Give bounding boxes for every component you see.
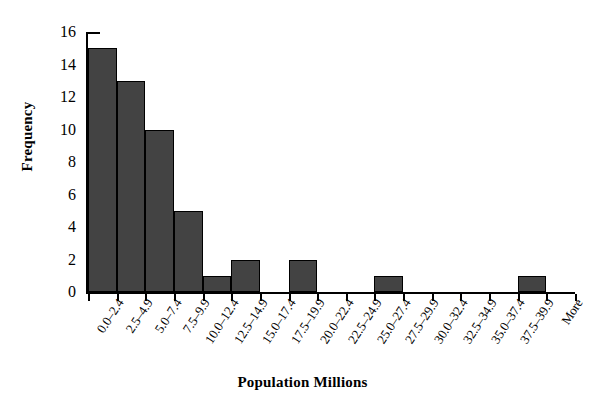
bar-slot [403, 32, 432, 292]
y-axis-tick-label: 16 [16, 24, 76, 40]
y-axis-tick-label: 0 [16, 284, 76, 300]
bar-slot [289, 32, 318, 292]
bar-slot [203, 32, 232, 292]
bar-slot [260, 32, 289, 292]
histogram-bar [203, 276, 232, 292]
bar-slot [518, 32, 547, 292]
histogram-bar [174, 211, 203, 292]
y-axis-tick-label: 10 [16, 122, 76, 138]
bar-slot [346, 32, 375, 292]
bar-slot [231, 32, 260, 292]
histogram-chart: Frequency 0246810121416 Population Milli… [0, 0, 605, 401]
histogram-bar [289, 260, 318, 293]
bar-slot [460, 32, 489, 292]
bar-slot [374, 32, 403, 292]
x-axis-title: Population Millions [0, 374, 605, 391]
plot-area [88, 32, 575, 292]
y-axis-tick-label: 6 [16, 187, 76, 203]
bar-slot [117, 32, 146, 292]
y-axis-tick-label: 14 [16, 57, 76, 73]
bar-slot [489, 32, 518, 292]
bar-slot [174, 32, 203, 292]
histogram-bar [374, 276, 403, 292]
bar-slot [145, 32, 174, 292]
histogram-bar [518, 276, 547, 292]
y-axis-tick-label: 8 [16, 154, 76, 170]
y-axis-tick-label: 4 [16, 219, 76, 235]
bar-slot [88, 32, 117, 292]
bar-slot [317, 32, 346, 292]
x-axis-tick-mark [88, 294, 90, 301]
histogram-bar [231, 260, 260, 293]
histogram-bar [88, 48, 117, 292]
y-axis-tick-label: 12 [16, 89, 76, 105]
y-axis-tick-label: 2 [16, 252, 76, 268]
bar-slot [546, 32, 575, 292]
x-axis-line [86, 292, 575, 294]
bar-slot [432, 32, 461, 292]
histogram-bar [117, 81, 146, 292]
histogram-bar [145, 130, 174, 293]
